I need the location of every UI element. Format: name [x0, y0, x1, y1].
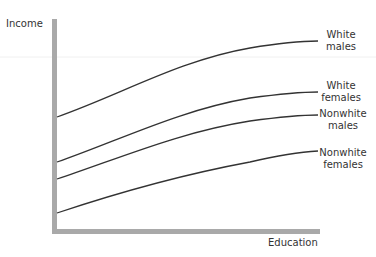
label-line: White: [315, 80, 367, 92]
legend-label-nonwhite-females: Nonwhite females: [315, 147, 371, 171]
legend-label-white-females: White females: [315, 80, 367, 104]
x-axis: [52, 229, 320, 234]
label-line: males: [315, 120, 371, 132]
legend-label-white-males: White males: [315, 29, 367, 53]
y-axis-label: Income: [6, 18, 43, 30]
label-line: males: [315, 41, 367, 53]
y-axis: [52, 19, 57, 234]
label-line: Nonwhite: [315, 108, 371, 120]
label-line: White: [315, 29, 367, 41]
label-line: Nonwhite: [315, 147, 371, 159]
label-line: females: [315, 92, 367, 104]
series-line-white-males: [57, 41, 318, 117]
x-axis-label: Education: [268, 237, 318, 249]
series-line-nonwhite-females: [57, 151, 318, 213]
series-line-white-females: [57, 92, 318, 162]
label-line: females: [315, 159, 371, 171]
legend-label-nonwhite-males: Nonwhite males: [315, 108, 371, 132]
